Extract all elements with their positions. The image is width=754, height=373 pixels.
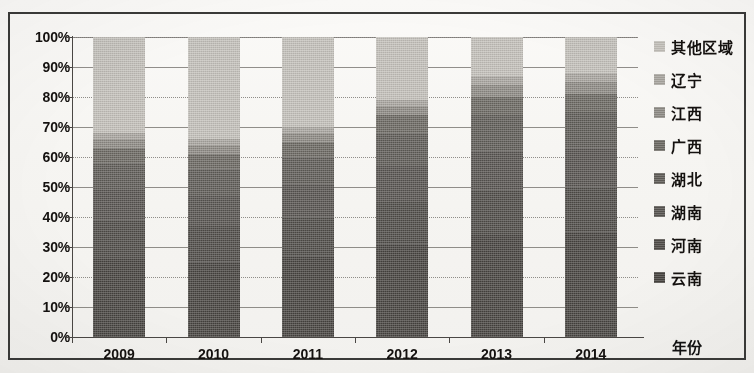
legend-swatch-icon <box>654 173 665 184</box>
x-axis-tickmark <box>355 337 356 343</box>
legend-label: 湖北 <box>671 168 702 189</box>
bar-segment[interactable] <box>93 190 145 220</box>
y-axis-tick-label: 70% <box>14 119 70 135</box>
bar-segment[interactable] <box>188 154 240 169</box>
bar-column[interactable] <box>188 37 240 337</box>
bar-segment[interactable] <box>282 127 334 133</box>
y-axis-tickmark <box>66 187 72 188</box>
bar-segment[interactable] <box>471 151 523 190</box>
x-axis-tick-label: 2012 <box>387 346 418 362</box>
bar-segment[interactable] <box>471 97 523 115</box>
bar-segment[interactable] <box>376 106 428 115</box>
y-axis-tick-label: 50% <box>14 179 70 195</box>
bar-segment[interactable] <box>376 37 428 100</box>
bar-segment[interactable] <box>93 148 145 163</box>
bar-segment[interactable] <box>282 133 334 142</box>
y-axis-tick-label: 20% <box>14 269 70 285</box>
legend-item[interactable]: 辽宁 <box>654 63 750 96</box>
legend-swatch-icon <box>654 272 665 283</box>
legend-swatch-icon <box>654 41 665 52</box>
bar-segment[interactable] <box>282 256 334 337</box>
y-axis-tickmark <box>66 217 72 218</box>
bar-segment[interactable] <box>282 184 334 217</box>
bar-segment[interactable] <box>282 217 334 256</box>
y-axis-tick-label: 0% <box>14 329 70 345</box>
bar-segment[interactable] <box>471 235 523 337</box>
bar-segment[interactable] <box>565 187 617 232</box>
legend-label: 广西 <box>671 135 702 156</box>
bar-segment[interactable] <box>565 232 617 337</box>
bar-segment[interactable] <box>93 139 145 148</box>
y-axis-tick-label: 100% <box>14 29 70 45</box>
bar-segment[interactable] <box>188 226 240 262</box>
x-axis-tickmark <box>166 337 167 343</box>
legend-item[interactable]: 其他区域 <box>654 30 750 63</box>
bar-segment[interactable] <box>376 202 428 244</box>
legend-item[interactable]: 广西 <box>654 129 750 162</box>
legend-item[interactable]: 河南 <box>654 228 750 261</box>
bar-segment[interactable] <box>471 190 523 235</box>
bar-segment[interactable] <box>376 100 428 106</box>
bar-segment[interactable] <box>565 148 617 187</box>
bar-segment[interactable] <box>282 142 334 157</box>
bar-segment[interactable] <box>565 94 617 112</box>
bar-segment[interactable] <box>93 259 145 337</box>
bar-segment[interactable] <box>376 166 428 202</box>
bar-segment[interactable] <box>376 115 428 133</box>
x-axis-title: 年份 <box>672 336 702 357</box>
x-axis-tick-label: 2011 <box>293 346 323 362</box>
bar-segment[interactable] <box>565 73 617 82</box>
chart-legend: 其他区域辽宁江西广西湖北湖南河南云南 <box>654 30 750 294</box>
bar-segment[interactable] <box>282 157 334 184</box>
x-axis-tickmark <box>449 337 450 343</box>
bar-segment[interactable] <box>471 115 523 151</box>
bar-segment[interactable] <box>376 133 428 166</box>
x-axis-tick-label: 2009 <box>104 346 135 362</box>
bar-segment[interactable] <box>376 244 428 337</box>
legend-swatch-icon <box>654 239 665 250</box>
bar-column[interactable] <box>93 37 145 337</box>
bar-segment[interactable] <box>471 37 523 76</box>
y-axis-tickmark <box>66 307 72 308</box>
bar-segment[interactable] <box>188 196 240 226</box>
legend-item[interactable]: 云南 <box>654 261 750 294</box>
bar-segment[interactable] <box>93 133 145 139</box>
y-axis-tickmark <box>66 157 72 158</box>
bar-column[interactable] <box>282 37 334 337</box>
legend-label: 云南 <box>671 267 702 288</box>
x-axis-tick-label: 2014 <box>575 346 606 362</box>
y-axis-tick-label: 10% <box>14 299 70 315</box>
legend-label: 辽宁 <box>671 69 702 90</box>
bar-segment[interactable] <box>565 82 617 94</box>
y-axis-tick-label: 80% <box>14 89 70 105</box>
legend-item[interactable]: 湖南 <box>654 195 750 228</box>
bar-segment[interactable] <box>93 163 145 190</box>
bar-column[interactable] <box>471 37 523 337</box>
legend-swatch-icon <box>654 206 665 217</box>
legend-label: 湖南 <box>671 201 702 222</box>
bar-segment[interactable] <box>188 145 240 154</box>
bar-segment[interactable] <box>471 85 523 97</box>
bar-segment[interactable] <box>471 76 523 85</box>
legend-swatch-icon <box>654 140 665 151</box>
bar-segment[interactable] <box>188 262 240 337</box>
bar-segment[interactable] <box>188 169 240 196</box>
bar-column[interactable] <box>376 37 428 337</box>
legend-item[interactable]: 江西 <box>654 96 750 129</box>
x-axis-tick-label: 2013 <box>481 346 512 362</box>
bar-segment[interactable] <box>188 37 240 139</box>
bar-segment[interactable] <box>565 37 617 73</box>
x-axis-tickmark <box>72 337 73 343</box>
legend-swatch-icon <box>654 74 665 85</box>
x-axis-tickmark <box>544 337 545 343</box>
bar-segment[interactable] <box>93 37 145 133</box>
bar-segment[interactable] <box>565 112 617 148</box>
bar-segment[interactable] <box>93 220 145 259</box>
bar-column[interactable] <box>565 37 617 337</box>
legend-label: 江西 <box>671 102 702 123</box>
y-axis-tick-label: 40% <box>14 209 70 225</box>
legend-label: 其他区域 <box>671 36 733 57</box>
bar-segment[interactable] <box>282 37 334 127</box>
bar-segment[interactable] <box>188 139 240 145</box>
legend-item[interactable]: 湖北 <box>654 162 750 195</box>
